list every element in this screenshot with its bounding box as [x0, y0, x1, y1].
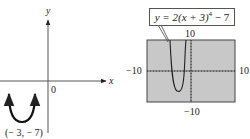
y-axis-label: y	[46, 6, 50, 16]
equation-suffix: − 7	[212, 11, 229, 23]
xmin-label: −10	[126, 66, 142, 76]
label-pointer	[158, 25, 168, 42]
curve	[9, 94, 35, 122]
ymax-label: 10	[185, 29, 195, 39]
origin-label: 0	[51, 85, 56, 95]
equation-label: y = 2(x + 3)4 − 7	[149, 8, 235, 26]
xmax-label: 10	[239, 66, 249, 76]
x-axis-label: x	[109, 76, 113, 86]
ymin-label: −10	[184, 107, 200, 117]
vertex-label: (− 3, − 7)	[5, 128, 43, 138]
equation-prefix: y = 2(x + 3)	[155, 11, 209, 23]
